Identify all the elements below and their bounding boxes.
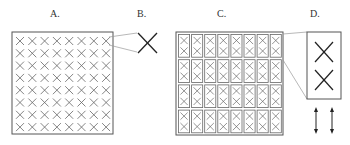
panel-b-x-mark <box>138 33 157 53</box>
panel-d-cell <box>307 32 341 99</box>
double-arrow-icons <box>314 107 334 134</box>
panel-a-grid <box>12 32 113 134</box>
connector-c-d <box>283 32 307 99</box>
diagram-canvas <box>0 0 350 145</box>
panel-c-grid <box>176 32 283 135</box>
